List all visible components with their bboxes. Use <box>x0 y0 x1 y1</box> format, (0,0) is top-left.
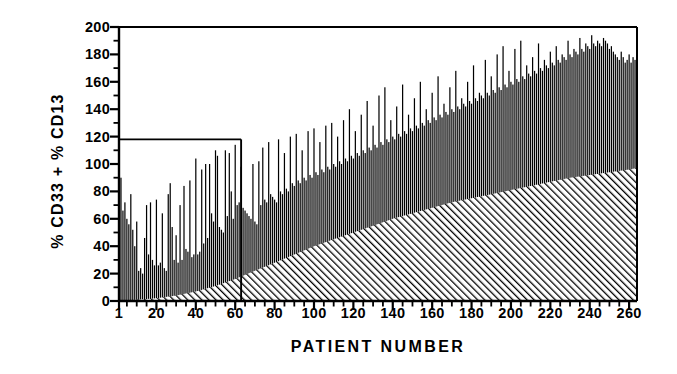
bar <box>229 153 230 301</box>
bar <box>160 263 161 301</box>
bar <box>146 205 147 301</box>
plot-canvas <box>0 0 677 374</box>
bar <box>158 265 159 301</box>
chart-figure: % CD33 + % CD13 PATIENT NUMBER 020406080… <box>0 0 677 374</box>
bar <box>168 194 169 301</box>
bar <box>142 274 143 301</box>
bar <box>122 211 123 301</box>
bar <box>174 260 175 301</box>
bar <box>144 238 145 301</box>
bar <box>128 224 129 301</box>
bar <box>156 200 157 301</box>
bar <box>126 219 127 301</box>
bar <box>132 230 133 301</box>
bar <box>152 260 153 301</box>
bar <box>164 268 165 301</box>
bar <box>209 164 210 301</box>
bar <box>140 268 141 301</box>
bar <box>172 227 173 301</box>
bar <box>136 222 137 301</box>
bar <box>148 254 149 301</box>
bar <box>185 249 186 301</box>
bar <box>215 150 216 301</box>
hatched-cumulative-region <box>119 168 637 301</box>
bar <box>179 205 180 301</box>
bar <box>176 235 177 301</box>
bar <box>150 202 151 301</box>
bar <box>170 183 171 301</box>
bar <box>195 159 196 301</box>
bar <box>225 150 226 301</box>
bar <box>183 186 184 301</box>
bar <box>134 246 135 301</box>
bar <box>130 194 131 301</box>
bar <box>189 180 190 301</box>
bar <box>138 271 139 301</box>
bar <box>154 265 155 301</box>
bar <box>205 164 206 301</box>
bar <box>166 271 167 301</box>
bar <box>162 213 163 301</box>
bar <box>120 178 121 301</box>
bar <box>124 202 125 301</box>
bar <box>235 145 236 301</box>
bar <box>201 169 202 301</box>
hatch-area <box>119 168 637 301</box>
bar <box>217 156 218 301</box>
